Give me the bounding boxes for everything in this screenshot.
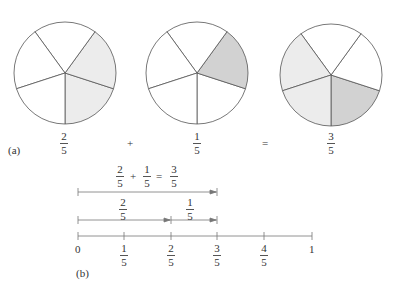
tick-1-5: 15	[120, 243, 128, 268]
tick-2-5: 25	[167, 243, 175, 268]
equals-sign: =	[262, 137, 268, 149]
eq-frac-a: 25	[116, 164, 124, 189]
eq-frac-c: 35	[170, 164, 178, 189]
fraction-two-fifths: 25	[60, 131, 68, 156]
tick-1: 1	[309, 243, 315, 255]
seg1-label: 25	[119, 197, 127, 222]
pie-three-fifths	[280, 24, 382, 126]
eq-frac-b: 15	[143, 164, 151, 189]
part-a-label: (a)	[8, 144, 20, 156]
pie-one-fifth	[146, 22, 248, 124]
eq-plus: +	[130, 170, 136, 182]
seg2-label: 15	[186, 197, 194, 222]
fraction-one-fifth: 15	[193, 131, 201, 156]
tick-3-5: 35	[213, 243, 221, 268]
plus-sign: +	[127, 137, 133, 149]
tick-4-5: 45	[260, 243, 268, 268]
tick-0: 0	[75, 243, 81, 255]
pie-two-fifths	[14, 22, 116, 124]
number-line-group	[78, 188, 312, 240]
part-b-label: (b)	[76, 267, 89, 279]
fraction-three-fifths: 35	[327, 131, 335, 156]
eq-equals: =	[156, 170, 162, 182]
